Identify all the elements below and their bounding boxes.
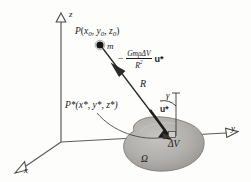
force-fraction: GmρΔV R2 <box>126 50 151 69</box>
force-numerator: GmρΔV <box>126 50 151 58</box>
region-omega-label: Ω <box>141 155 148 165</box>
axis-z-arrowhead <box>56 13 66 22</box>
force-denominator: R2 <box>135 59 142 69</box>
volume-element-label: ΔV <box>168 140 179 150</box>
point-p-paren-close: ) <box>116 26 119 36</box>
force-unit-vector: u* <box>153 55 164 64</box>
point-pstar-label: P*(x*, y*, z*) <box>65 101 118 111</box>
force-expression: − GmρΔV R2 u* <box>118 50 164 69</box>
gravity-attraction-figure: z y x P(x0, y0, z0) m − GmρΔV R2 u* R γ … <box>0 0 251 182</box>
point-mass-label: m <box>107 42 114 51</box>
figure-canvas <box>0 0 251 182</box>
point-mass-m-dot <box>96 41 103 48</box>
axis-y-label: y <box>231 124 235 133</box>
region-omega-body <box>124 117 204 171</box>
force-sign: − <box>118 54 125 64</box>
unit-vector-u-label: u* <box>160 105 169 114</box>
angle-gamma-label: γ <box>166 91 170 100</box>
axis-x-label: x <box>24 166 28 175</box>
axis-z-label: z <box>69 10 73 19</box>
distance-r-label: R <box>140 79 146 89</box>
force-denominator-exponent: 2 <box>140 59 143 65</box>
axis-x-line <box>26 142 61 166</box>
point-p-label: P(x0, y0, z0) <box>75 27 119 38</box>
